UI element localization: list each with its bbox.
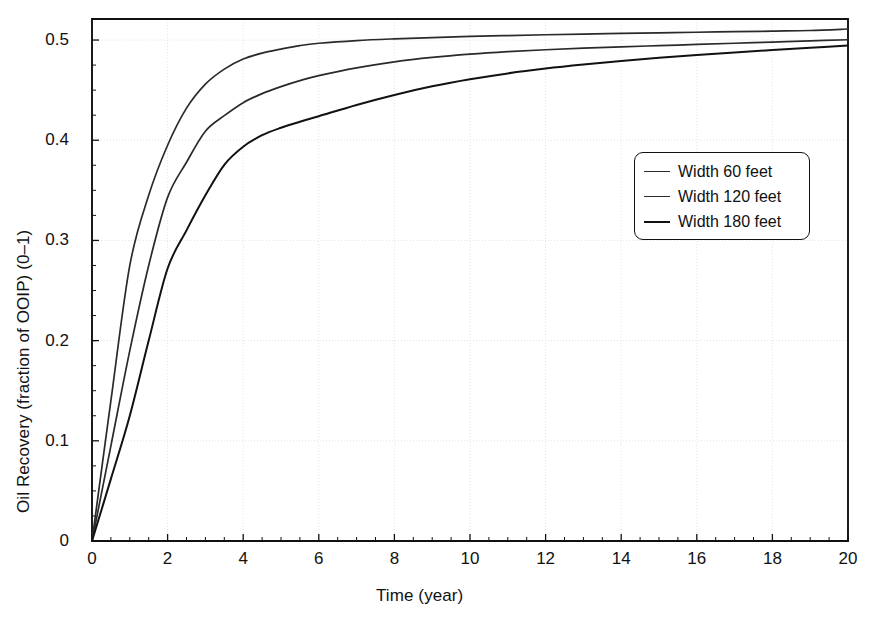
x-tick-label: 0 — [87, 549, 96, 569]
chart-figure: Oil Recovery (fraction of OOIP) (0–1) Ti… — [0, 0, 873, 625]
x-tick-label: 18 — [763, 549, 782, 569]
legend-line-swatch — [644, 171, 670, 172]
x-tick-label: 12 — [536, 549, 555, 569]
y-tick-label: 0.1 — [45, 431, 69, 451]
legend-item-label: Width 180 feet — [678, 213, 781, 231]
legend-item-label: Width 120 feet — [678, 188, 781, 206]
series-line — [92, 29, 848, 541]
x-tick-label: 6 — [314, 549, 323, 569]
legend-line-swatch — [644, 221, 670, 223]
x-tick-label: 16 — [687, 549, 706, 569]
x-tick-label: 14 — [612, 549, 631, 569]
legend-item[interactable]: Width 180 feet — [635, 209, 809, 234]
x-tick-label: 2 — [163, 549, 172, 569]
y-tick-label: 0.2 — [45, 331, 69, 351]
legend-line-swatch — [644, 196, 670, 197]
legend-item[interactable]: Width 120 feet — [635, 184, 809, 209]
y-tick-label: 0.4 — [45, 130, 69, 150]
x-axis-label: Time (year) — [376, 586, 463, 606]
legend-item[interactable]: Width 60 feet — [635, 159, 809, 184]
y-tick-label: 0 — [60, 531, 69, 551]
chart-plot-area — [0, 0, 873, 625]
y-axis-label: Oil Recovery (fraction of OOIP) (0–1) — [14, 230, 34, 513]
x-tick-label: 20 — [839, 549, 858, 569]
chart-legend: Width 60 feet Width 120 feet Width 180 f… — [634, 152, 810, 240]
x-tick-label: 10 — [461, 549, 480, 569]
legend-item-label: Width 60 feet — [678, 163, 772, 181]
y-tick-label: 0.3 — [45, 230, 69, 250]
y-tick-label: 0.5 — [45, 30, 69, 50]
x-tick-label: 4 — [238, 549, 247, 569]
data-series-group — [92, 29, 848, 541]
gridlines — [92, 19, 848, 541]
series-line — [92, 40, 848, 541]
x-tick-label: 8 — [390, 549, 399, 569]
